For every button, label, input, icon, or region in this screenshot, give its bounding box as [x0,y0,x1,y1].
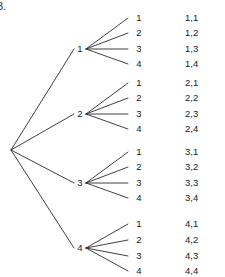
stage2-edge-4-4 [86,248,128,271]
stage2-edge-2-2 [86,98,128,114]
outcome-label-1-2: 1,2 [185,28,211,38]
leaf-node-3-1: 1 [133,147,145,157]
stage1-edge-1 [11,49,74,150]
outcome-label-3-1: 3,1 [185,147,211,157]
leaf-node-3-4: 4 [133,193,145,203]
leaf-node-2-4: 4 [133,124,145,134]
stage1-node-1: 1 [74,44,86,54]
leaf-node-2-3: 3 [133,109,145,119]
outcome-label-2-3: 2,3 [185,109,211,119]
stage2-edge-3-4 [86,183,128,198]
outcome-label-2-4: 2,4 [185,124,211,134]
outcome-label-4-2: 4,2 [185,235,211,245]
stage2-edge-4-3 [86,248,128,256]
stage1-node-2: 2 [74,109,86,119]
stage2-edge-2-1 [86,83,128,114]
leaf-node-4-2: 2 [133,235,145,245]
leaf-node-4-1: 1 [133,219,145,229]
leaf-node-2-2: 2 [133,93,145,103]
outcome-label-2-2: 2,2 [185,93,211,103]
outcome-label-2-1: 2,1 [185,78,211,88]
stage2-edge-2-4 [86,114,128,129]
stage2-edge-1-2 [86,33,128,49]
outcome-label-1-1: 1,1 [185,13,211,23]
leaf-node-1-1: 1 [133,13,145,23]
outcome-label-1-4: 1,4 [185,59,211,69]
outcome-label-3-2: 3,2 [185,162,211,172]
leaf-node-3-3: 3 [133,178,145,188]
stage1-edge-2 [11,114,74,150]
leaf-node-4-4: 4 [133,266,145,276]
stage2-edge-1-1 [86,18,128,49]
outcome-label-4-3: 4,3 [185,251,211,261]
stage1-node-3: 3 [74,178,86,188]
leaf-node-2-1: 1 [133,78,145,88]
leaf-node-1-4: 4 [133,59,145,69]
stage2-edge-3-2 [86,167,128,183]
leaf-node-1-2: 2 [133,28,145,38]
tree-diagram-figure: 3. 123411,121,231,341,412,122,232,342,41… [0,0,225,277]
leaf-node-1-3: 3 [133,44,145,54]
stage1-node-4: 4 [74,243,86,253]
outcome-label-4-4: 4,4 [185,266,211,276]
outcome-label-3-3: 3,3 [185,178,211,188]
leaf-node-4-3: 3 [133,251,145,261]
outcome-label-4-1: 4,1 [185,219,211,229]
stage1-edge-4 [11,150,74,248]
leaf-node-3-2: 2 [133,162,145,172]
stage2-edge-3-1 [86,152,128,183]
outcome-label-3-4: 3,4 [185,193,211,203]
stage2-edge-1-4 [86,49,128,64]
stage1-edge-3 [11,150,74,183]
outcome-label-1-3: 1,3 [185,44,211,54]
